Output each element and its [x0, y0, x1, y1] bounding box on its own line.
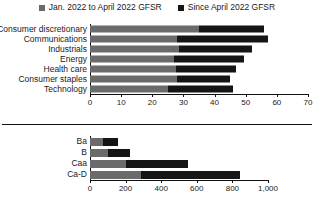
x-axis-tick: [268, 180, 269, 183]
bar-segment-prior[interactable]: [90, 86, 168, 93]
category-label: Energy: [0, 54, 87, 64]
legend-item: Since April 2022 GFSR: [178, 3, 275, 12]
bar-row: [90, 24, 308, 34]
legend-item-label: Jan. 2022 to April 2022 GFSR: [49, 3, 162, 12]
category-label: Consumer discretionary: [0, 24, 87, 34]
x-axis-tick-label: 200: [119, 184, 132, 193]
bar-segment-prior[interactable]: [90, 160, 126, 168]
category-axis-labels: Consumer discretionaryCommunicationsIndu…: [0, 24, 87, 94]
x-axis-tick: [161, 180, 162, 183]
bar-segment-since[interactable]: [177, 76, 230, 83]
stacked-bar[interactable]: [90, 36, 268, 43]
category-label: B: [0, 147, 87, 158]
bar-segment-since[interactable]: [141, 171, 241, 179]
x-axis-tick: [232, 180, 233, 183]
x-axis-tick: [152, 94, 153, 97]
stacked-bar[interactable]: [90, 76, 230, 83]
bar-segment-prior[interactable]: [90, 36, 177, 43]
stacked-bar[interactable]: [90, 86, 233, 93]
x-axis-tick: [90, 94, 91, 97]
bar-segment-prior[interactable]: [90, 66, 176, 73]
bar-segment-prior[interactable]: [90, 149, 108, 157]
legend-item: Jan. 2022 to April 2022 GFSR: [39, 3, 162, 12]
stacked-bar[interactable]: [90, 160, 188, 168]
bar-row: [90, 158, 268, 169]
x-axis-tick: [183, 94, 184, 97]
stacked-bar[interactable]: [90, 138, 118, 146]
x-axis-tick-label: 600: [190, 184, 203, 193]
category-label: Ca-D: [0, 169, 87, 180]
x-axis-tick-label: 10: [117, 98, 126, 107]
x-axis-tick-label: 20: [148, 98, 157, 107]
x-axis-tick-label: 0: [88, 98, 92, 107]
bar-segment-prior[interactable]: [90, 76, 177, 83]
chart-figure: Jan. 2022 to April 2022 GFSR Since April…: [0, 0, 314, 202]
x-axis-tick: [197, 180, 198, 183]
bar-segment-since[interactable]: [174, 56, 244, 63]
bar-segment-since[interactable]: [168, 86, 233, 93]
stacked-bar[interactable]: [90, 171, 240, 179]
plot-area: 02004006008001,000: [90, 136, 268, 180]
bar-segment-since[interactable]: [103, 138, 118, 146]
bar-segment-prior[interactable]: [90, 138, 103, 146]
category-label: Consumer staples: [0, 74, 87, 84]
bar-row: [90, 84, 308, 94]
x-axis-tick: [126, 180, 127, 183]
x-axis-tick-label: 50: [241, 98, 250, 107]
x-axis-tick: [121, 94, 122, 97]
bar-row: [90, 169, 268, 180]
bar-segment-since[interactable]: [179, 46, 252, 53]
plot-area: 010203040506070: [90, 24, 308, 94]
bar-row: [90, 64, 308, 74]
bar-row: [90, 74, 308, 84]
category-label: Industrials: [0, 44, 87, 54]
bar-row: [90, 34, 308, 44]
bar-segment-since[interactable]: [177, 36, 267, 43]
category-label: Health care: [0, 64, 87, 74]
square-swatch-icon: [39, 5, 45, 11]
bar-segment-since[interactable]: [199, 26, 264, 33]
category-label: Technology: [0, 84, 87, 94]
category-label: Communications: [0, 34, 87, 44]
bar-segment-since[interactable]: [126, 160, 188, 168]
bar-segment-prior[interactable]: [90, 171, 141, 179]
stacked-bar[interactable]: [90, 46, 252, 53]
x-axis-tick: [308, 94, 309, 97]
stacked-bar[interactable]: [90, 149, 130, 157]
x-axis-tick-label: 30: [179, 98, 188, 107]
x-axis: 010203040506070: [90, 94, 308, 95]
bar-segment-prior[interactable]: [90, 26, 199, 33]
x-axis-tick-label: 800: [226, 184, 239, 193]
category-axis-labels: BaBCaaCa-D: [0, 136, 87, 180]
x-axis-tick-label: 400: [155, 184, 168, 193]
chart-panel-ratings: BaBCaaCa-D 02004006008001,000: [0, 128, 314, 202]
x-axis-tick: [215, 94, 216, 97]
category-label: Ba: [0, 136, 87, 147]
bar-row: [90, 147, 268, 158]
x-axis-tick-label: 40: [210, 98, 219, 107]
bar-segment-prior[interactable]: [90, 46, 179, 53]
bar-segment-prior[interactable]: [90, 56, 174, 63]
stacked-bar[interactable]: [90, 26, 264, 33]
category-label: Caa: [0, 158, 87, 169]
legend: Jan. 2022 to April 2022 GFSR Since April…: [0, 3, 314, 12]
panel-divider: [2, 124, 312, 125]
stacked-bar[interactable]: [90, 66, 236, 73]
bar-row: [90, 54, 308, 64]
chart-panel-sectors: Consumer discretionaryCommunicationsIndu…: [0, 22, 314, 118]
bar-row: [90, 136, 268, 147]
x-axis-tick-label: 70: [304, 98, 313, 107]
bar-segment-since[interactable]: [108, 149, 130, 157]
legend-item-label: Since April 2022 GFSR: [188, 3, 275, 12]
x-axis-tick-label: 1,000: [258, 184, 278, 193]
x-axis-tick-label: 60: [272, 98, 281, 107]
x-axis: 02004006008001,000: [90, 180, 268, 181]
bar-row: [90, 44, 308, 54]
x-axis-tick: [277, 94, 278, 97]
x-axis-tick-label: 0: [88, 184, 92, 193]
square-swatch-icon: [178, 5, 184, 11]
x-axis-tick: [246, 94, 247, 97]
stacked-bar[interactable]: [90, 56, 244, 63]
x-axis-tick: [90, 180, 91, 183]
bar-segment-since[interactable]: [176, 66, 237, 73]
